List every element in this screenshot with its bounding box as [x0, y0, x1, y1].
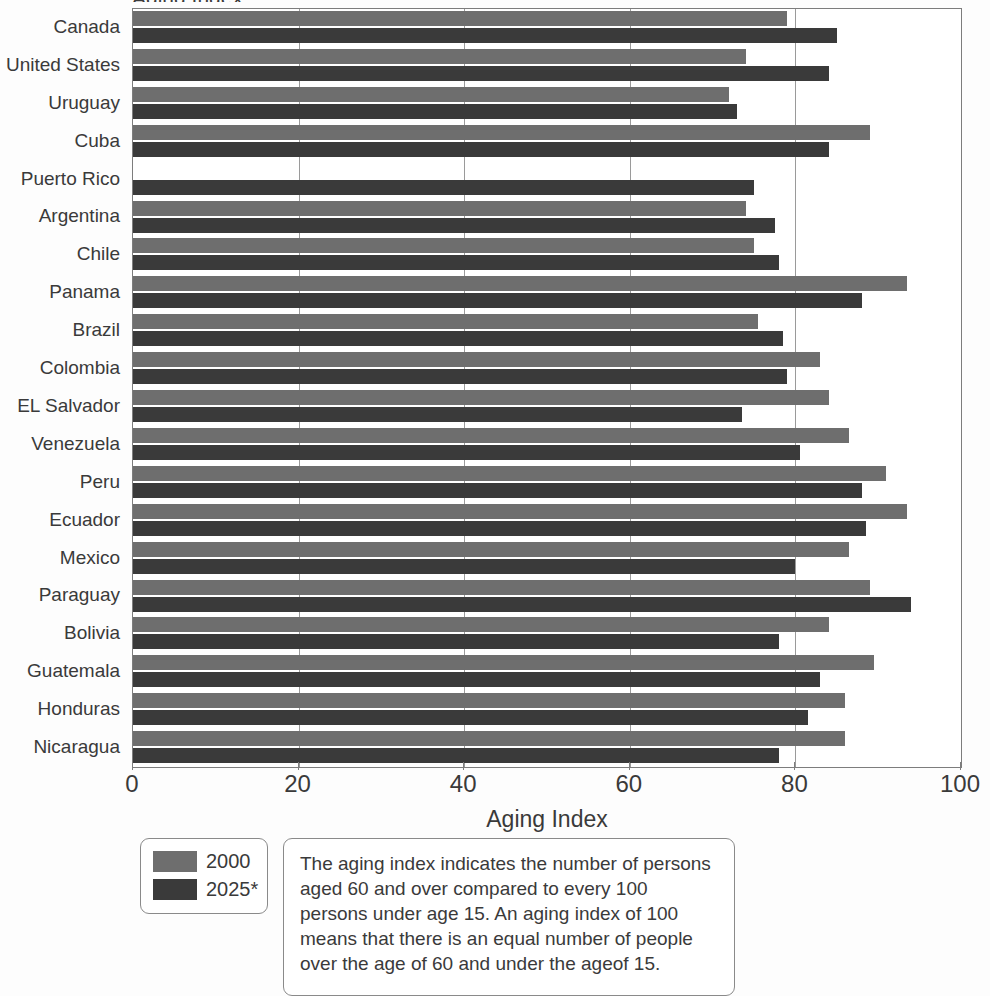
bar-uruguay-2000[interactable]: [133, 87, 729, 102]
bar-colombia-2000[interactable]: [133, 352, 820, 367]
bar-nicaragua-2025[interactable]: [133, 748, 779, 763]
bar-bolivia-2000[interactable]: [133, 617, 829, 632]
bar-chile-2000[interactable]: [133, 238, 754, 253]
bar-united-states-2000[interactable]: [133, 49, 746, 64]
bar-group: [133, 85, 961, 123]
bar-panama-2000[interactable]: [133, 276, 907, 291]
y-label-mexico: Mexico: [60, 548, 120, 567]
bar-group: [133, 464, 961, 502]
bar-colombia-2025[interactable]: [133, 369, 787, 384]
bar-group: [133, 615, 961, 653]
y-label-peru: Peru: [80, 472, 120, 491]
plot-area: [132, 8, 962, 768]
y-label-nicaragua: Nicaragua: [33, 737, 120, 756]
y-label-venezuela: Venezuela: [31, 434, 120, 453]
y-label-brazil: Brazil: [72, 320, 120, 339]
bar-puerto-rico-2025[interactable]: [133, 180, 754, 195]
y-label-argentina: Argentina: [39, 206, 120, 225]
bar-bolivia-2025[interactable]: [133, 634, 779, 649]
x-tickmark-40: [463, 762, 464, 770]
legend-swatch-2025: [153, 879, 197, 900]
x-tickmark-0: [132, 762, 133, 770]
bar-group: [133, 350, 961, 388]
y-label-paraguay: Paraguay: [39, 585, 120, 604]
bar-group: [133, 653, 961, 691]
bar-group: [133, 388, 961, 426]
y-axis-labels: CanadaUnited StatesUruguayCubaPuerto Ric…: [0, 8, 126, 768]
legend: 2000 2025*: [140, 838, 268, 914]
bar-guatemala-2000[interactable]: [133, 655, 874, 670]
x-axis-ticks: 020406080100: [132, 770, 962, 804]
x-axis-title: Aging Index: [132, 806, 962, 833]
bar-el-salvador-2000[interactable]: [133, 390, 829, 405]
bar-group: [133, 123, 961, 161]
bar-nicaragua-2000[interactable]: [133, 731, 845, 746]
cut-off-chart-title: Aging Index: [132, 0, 732, 2]
bar-peru-2025[interactable]: [133, 483, 862, 498]
bar-rows: [133, 9, 961, 767]
bar-venezuela-2025[interactable]: [133, 445, 800, 460]
bar-honduras-2000[interactable]: [133, 693, 845, 708]
bar-group: [133, 47, 961, 85]
bar-group: [133, 691, 961, 729]
y-label-united-states: United States: [6, 55, 120, 74]
x-tickmark-80: [794, 762, 795, 770]
y-label-colombia: Colombia: [40, 358, 120, 377]
legend-item-2000[interactable]: 2000: [153, 847, 267, 875]
bar-brazil-2000[interactable]: [133, 314, 758, 329]
y-label-bolivia: Bolivia: [64, 623, 120, 642]
bar-group: [133, 540, 961, 578]
bar-venezuela-2000[interactable]: [133, 428, 849, 443]
bar-uruguay-2025[interactable]: [133, 104, 737, 119]
x-tick-label-100: 100: [940, 770, 980, 798]
bar-cuba-2025[interactable]: [133, 142, 829, 157]
bar-group: [133, 274, 961, 312]
bar-canada-2000[interactable]: [133, 11, 787, 26]
x-tick-label-20: 20: [284, 770, 311, 798]
y-label-cuba: Cuba: [75, 131, 120, 150]
bar-group: [133, 502, 961, 540]
bar-group: [133, 729, 961, 767]
x-tick-label-80: 80: [781, 770, 808, 798]
x-tick-label-0: 0: [125, 770, 138, 798]
y-label-chile: Chile: [77, 244, 120, 263]
bar-paraguay-2025[interactable]: [133, 597, 911, 612]
x-tick-label-60: 60: [615, 770, 642, 798]
bar-el-salvador-2025[interactable]: [133, 407, 742, 422]
bar-mexico-2000[interactable]: [133, 542, 849, 557]
bar-group: [133, 9, 961, 47]
bar-group: [133, 199, 961, 237]
bar-group: [133, 236, 961, 274]
bar-argentina-2000[interactable]: [133, 201, 746, 216]
x-tickmark-60: [629, 762, 630, 770]
bar-honduras-2025[interactable]: [133, 710, 808, 725]
y-label-guatemala: Guatemala: [27, 661, 120, 680]
bar-canada-2025[interactable]: [133, 28, 837, 43]
x-tickmark-100: [960, 762, 961, 770]
bar-cuba-2000[interactable]: [133, 125, 870, 140]
bar-united-states-2025[interactable]: [133, 66, 829, 81]
bar-group: [133, 426, 961, 464]
bar-argentina-2025[interactable]: [133, 218, 775, 233]
y-label-el-salvador: EL Salvador: [17, 396, 120, 415]
x-tick-label-40: 40: [450, 770, 477, 798]
legend-item-2025[interactable]: 2025*: [153, 875, 267, 903]
aging-index-figure: Aging Index CanadaUnited StatesUruguayCu…: [0, 0, 990, 996]
bar-group: [133, 312, 961, 350]
y-label-honduras: Honduras: [38, 699, 120, 718]
bar-brazil-2025[interactable]: [133, 331, 783, 346]
bar-group: [133, 578, 961, 616]
bar-peru-2000[interactable]: [133, 466, 886, 481]
bar-ecuador-2025[interactable]: [133, 521, 866, 536]
bar-mexico-2025[interactable]: [133, 559, 795, 574]
y-label-uruguay: Uruguay: [48, 93, 120, 112]
x-tickmark-20: [298, 762, 299, 770]
bar-ecuador-2000[interactable]: [133, 504, 907, 519]
bar-paraguay-2000[interactable]: [133, 580, 870, 595]
bar-panama-2025[interactable]: [133, 293, 862, 308]
bar-guatemala-2025[interactable]: [133, 672, 820, 687]
legend-swatch-2000: [153, 851, 197, 872]
bar-chile-2025[interactable]: [133, 255, 779, 270]
y-label-canada: Canada: [53, 17, 120, 36]
y-label-puerto-rico: Puerto Rico: [21, 169, 120, 188]
